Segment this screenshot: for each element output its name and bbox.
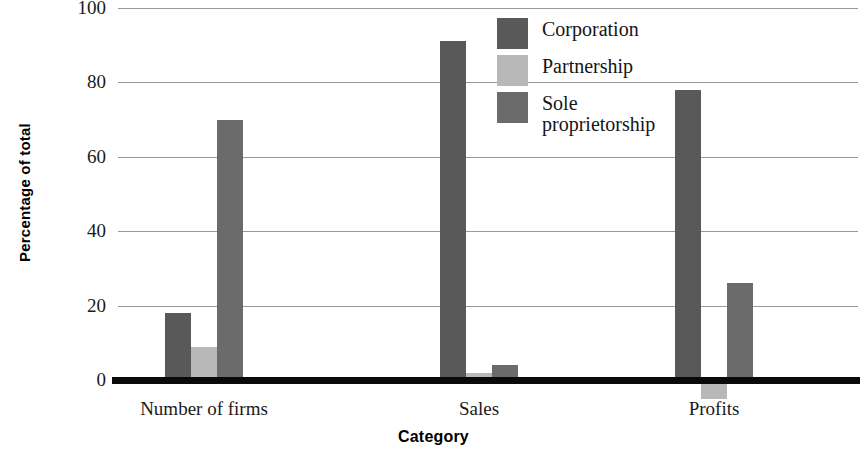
bar-chart: Percentage of total 100806040200 Number … bbox=[0, 0, 867, 468]
x-axis-title: Category bbox=[0, 428, 867, 446]
bar-partnership-number-of-firms bbox=[191, 347, 217, 380]
plot-area bbox=[118, 8, 858, 380]
y-axis-tick-label: 80 bbox=[50, 72, 106, 91]
legend-label: Sole proprietorship bbox=[542, 92, 692, 135]
zero-axis-line bbox=[112, 377, 860, 384]
x-axis-tick-label: Profits bbox=[584, 398, 844, 420]
bar-corporation-number-of-firms bbox=[165, 313, 191, 380]
gridline bbox=[118, 8, 858, 9]
legend-item: Sole proprietorship bbox=[497, 92, 692, 135]
x-axis-tick-label: Number of firms bbox=[74, 398, 334, 420]
legend-label: Partnership bbox=[542, 55, 633, 77]
bar-corporation-sales bbox=[440, 41, 466, 380]
bar-sole-proprietorship-profits bbox=[727, 283, 753, 380]
y-axis-tick-label: 60 bbox=[50, 147, 106, 166]
y-axis-tick-label: 40 bbox=[50, 221, 106, 240]
y-axis-tick-label: 0 bbox=[50, 370, 106, 389]
gridline bbox=[118, 82, 858, 83]
chart-legend: CorporationPartnershipSole proprietorshi… bbox=[497, 18, 692, 141]
y-axis-tick-label: 100 bbox=[50, 0, 106, 17]
legend-swatch-icon bbox=[497, 92, 528, 123]
bar-sole-proprietorship-number-of-firms bbox=[217, 120, 243, 380]
y-axis-title: Percentage of total bbox=[16, 103, 33, 283]
legend-item: Corporation bbox=[497, 18, 692, 49]
legend-swatch-icon bbox=[497, 18, 528, 49]
legend-label: Corporation bbox=[542, 18, 639, 40]
y-axis-tick-labels: 100806040200 bbox=[50, 8, 106, 380]
y-axis-tick-label: 20 bbox=[50, 296, 106, 315]
legend-swatch-icon bbox=[497, 55, 528, 86]
cropped-chart-title bbox=[0, 0, 867, 4]
legend-item: Partnership bbox=[497, 55, 692, 86]
x-axis-tick-label: Sales bbox=[349, 398, 609, 420]
